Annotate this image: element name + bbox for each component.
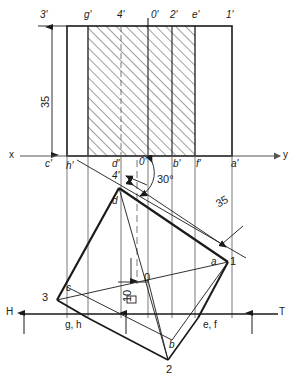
elevation-view-group (38, 18, 232, 156)
ht-reference-line-group (20, 313, 278, 334)
chord-0-to-2 (148, 280, 168, 360)
label-e-f: e, f (203, 320, 217, 330)
label-e-prime-top: e' (192, 10, 199, 20)
leader-to-4prime (126, 176, 147, 185)
label-4-prime-plan: 4' (112, 171, 119, 181)
edge-4prime-to-1 (119, 188, 228, 262)
dim-35-oblique-line (133, 185, 226, 247)
label-d: d (112, 196, 118, 206)
label-f-prime: f' (196, 159, 201, 169)
label-y-axis: y (283, 150, 288, 160)
label-g-h: g, h (65, 320, 82, 330)
label-t-plane: T (279, 307, 285, 317)
label-0-prime-xy: 0' (139, 157, 146, 167)
label-b-prime: b' (173, 159, 180, 169)
label-0-prime-top: 0' (151, 10, 158, 20)
label-point-3: 3 (42, 292, 48, 303)
label-b: b (169, 340, 175, 350)
dimension-angle-30: 30° (157, 174, 174, 185)
label-2-prime: 2' (170, 10, 177, 20)
label-4-prime-top: 4' (117, 10, 124, 20)
drawing-vector-layer (0, 0, 298, 384)
label-c-prime: c' (45, 159, 52, 169)
label-g-prime: g' (84, 10, 91, 20)
label-1-prime: 1' (226, 10, 233, 20)
hatched-section-area (88, 26, 195, 156)
label-h-prime: h' (66, 161, 73, 171)
label-a-prime: a' (231, 159, 238, 169)
plan-view-group (57, 156, 246, 360)
label-point-1: 1 (230, 256, 236, 267)
chord-3-to-1 (57, 262, 228, 300)
label-point-0: 0 (144, 272, 150, 283)
tick-at-point-1 (222, 226, 243, 244)
label-d-prime: d' (112, 159, 119, 169)
edge-3-to-ghbase (57, 300, 88, 318)
label-3-prime: 3' (40, 10, 47, 20)
label-point-2: 2 (166, 364, 172, 375)
edge-ef-to-1 (198, 262, 228, 318)
label-h-plane: H (6, 307, 13, 317)
edge-ghbase-to-2 (88, 318, 168, 360)
chord-b-to-a (172, 262, 228, 340)
label-a: a (211, 257, 217, 267)
y-arrow-head (274, 153, 281, 160)
dimension-10-vertical: 10 (122, 290, 133, 302)
dimension-35-vertical: 35 (40, 96, 51, 108)
label-c: c (66, 283, 71, 293)
label-x-axis: x (9, 150, 14, 160)
technical-drawing-canvas: 3' g' 4' 0' 2' e' 1' x y c' h' d' 0' b' … (0, 0, 298, 384)
